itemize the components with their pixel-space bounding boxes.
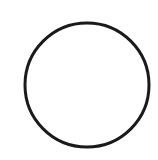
circle-outline bbox=[25, 23, 149, 147]
canvas bbox=[0, 0, 158, 160]
circle-outline-graphic bbox=[0, 0, 158, 160]
